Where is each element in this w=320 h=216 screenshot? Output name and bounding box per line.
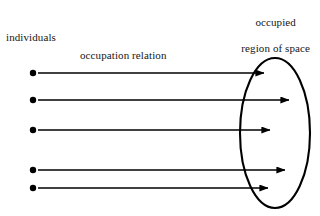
individual-3 xyxy=(30,127,36,133)
label-occupied-region-line1: occupied xyxy=(255,16,296,28)
label-occupation-relation: occupation relation xyxy=(80,49,167,62)
label-occupied-region: occupied region of space xyxy=(222,3,318,68)
individual-nodes xyxy=(30,70,36,191)
individual-1 xyxy=(30,70,36,76)
individual-2 xyxy=(30,97,36,103)
individual-4 xyxy=(30,167,36,173)
occupation-relation-arrows xyxy=(38,73,289,188)
label-individuals: individuals xyxy=(6,31,56,44)
individual-5 xyxy=(30,185,36,191)
region-ellipse-shape xyxy=(240,58,310,208)
diagram-canvas: individuals occupation relation occupied… xyxy=(0,0,320,216)
occupied-region-ellipse xyxy=(240,58,310,208)
label-occupied-region-line2: region of space xyxy=(241,42,310,54)
